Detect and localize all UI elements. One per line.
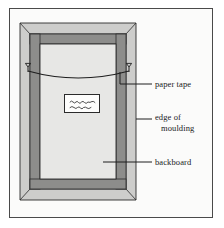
- rebate-band-left: [30, 34, 40, 189]
- callout-paper-tape-label: paper tape: [155, 79, 191, 89]
- rebate-band-right: [116, 34, 126, 189]
- rebate-band-bottom: [30, 179, 126, 189]
- callout-backboard: backboard: [155, 157, 191, 168]
- handwritten-label: [64, 94, 100, 113]
- callout-paper-tape: paper tape: [155, 79, 191, 90]
- callout-edge-of-moulding: edge of moulding: [155, 112, 194, 133]
- handwriting-scribble-icon: [65, 95, 100, 113]
- callout-edge-of-moulding-label-line2: moulding: [155, 123, 194, 134]
- callout-edge-of-moulding-label: edge of: [155, 112, 194, 123]
- figure-container: paper tape edge of moulding backboard: [0, 0, 224, 228]
- rebate-band-top: [30, 34, 126, 44]
- callout-backboard-label: backboard: [155, 157, 191, 167]
